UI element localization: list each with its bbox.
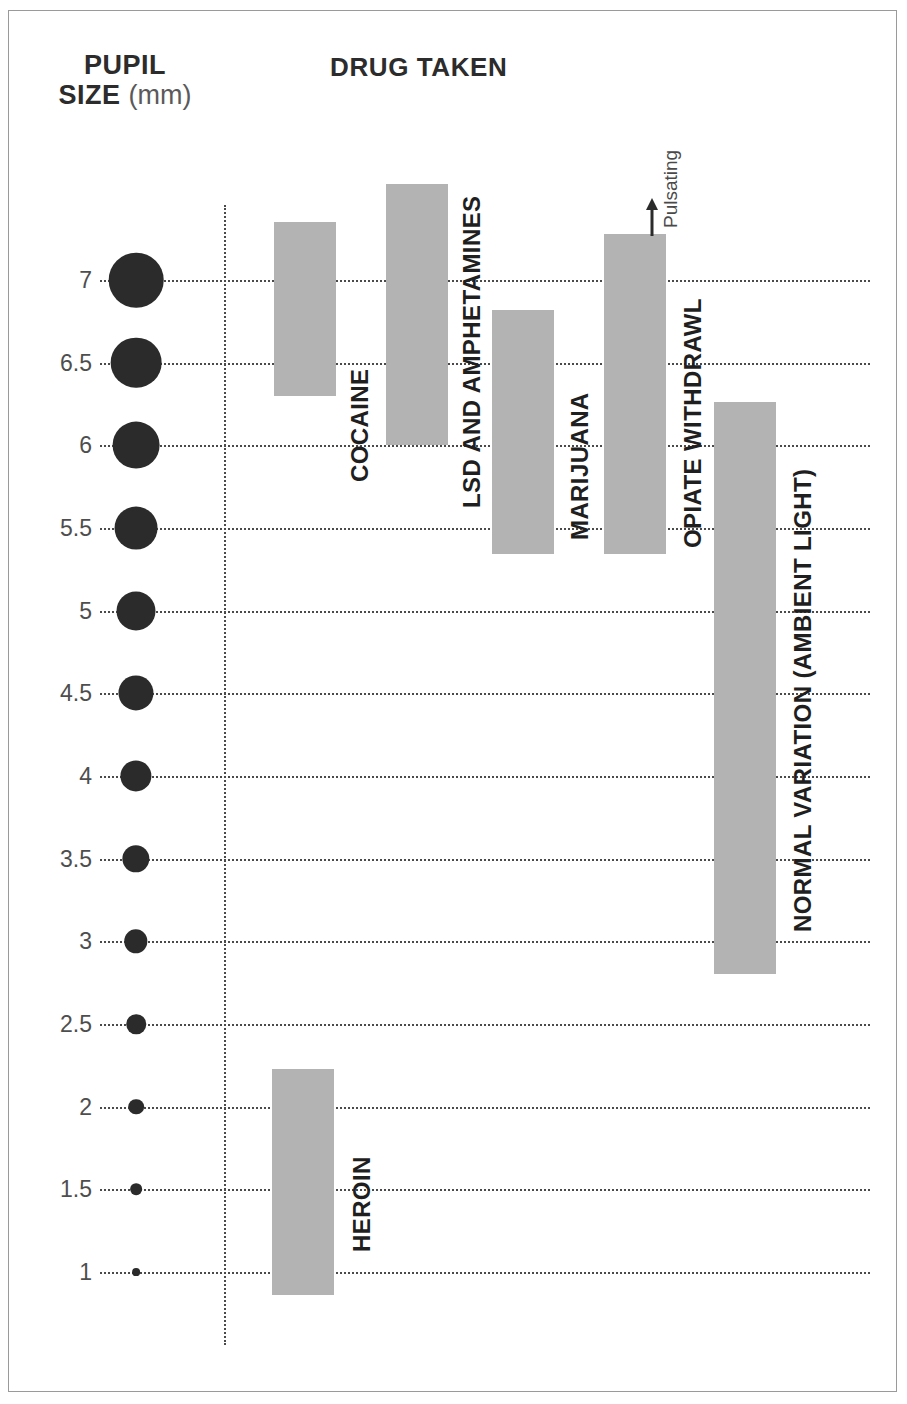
- pupil-circle: [117, 591, 156, 630]
- vertical-axis-line: [224, 205, 226, 1345]
- pupil-circle: [115, 507, 158, 550]
- bar-label: MARIJUANA: [566, 392, 594, 540]
- pupil-circle: [109, 253, 164, 308]
- gridline: [100, 1107, 870, 1109]
- y-axis-tick-label: 6: [26, 432, 92, 459]
- pupil-circle: [132, 1268, 140, 1276]
- bar-normal-variation-ambient-light: [714, 402, 776, 974]
- bar-label: NORMAL VARIATION (AMBIENT LIGHT): [789, 469, 817, 932]
- gridline: [100, 1272, 870, 1274]
- y-axis-tick-label: 5.5: [26, 515, 92, 542]
- pupil-circle: [118, 676, 153, 711]
- plot-area: 76.565.554.543.532.521.51 COCAINELSD AND…: [0, 0, 907, 1404]
- pupil-circle: [130, 1183, 142, 1195]
- y-axis-tick-label: 6.5: [26, 349, 92, 376]
- pupil-circle: [120, 760, 151, 791]
- pulsating-annotation-label: Pulsating: [660, 150, 682, 228]
- bar-label: OPIATE WITHDRAWL: [679, 298, 707, 548]
- bar-label: HEROIN: [348, 1156, 376, 1252]
- y-axis-tick-label: 3.5: [26, 845, 92, 872]
- pupil-circle: [126, 1014, 146, 1034]
- y-axis-tick-label: 2.5: [26, 1011, 92, 1038]
- bar-opiate-withdrawl: [604, 234, 666, 555]
- y-axis-tick-label: 4.5: [26, 680, 92, 707]
- pupil-circle: [111, 337, 162, 388]
- chart-page: PUPIL SIZE (mm) DRUG TAKEN 76.565.554.54…: [0, 0, 907, 1404]
- up-arrow-icon: [645, 198, 659, 236]
- y-axis-tick-label: 5: [26, 597, 92, 624]
- bar-heroin: [272, 1069, 334, 1296]
- y-axis-tick-label: 1: [26, 1259, 92, 1286]
- y-axis-tick-label: 4: [26, 763, 92, 790]
- y-axis-tick-label: 1.5: [26, 1176, 92, 1203]
- gridline: [100, 1024, 870, 1026]
- y-axis-tick-label: 2: [26, 1093, 92, 1120]
- pupil-circle: [122, 845, 149, 872]
- y-axis-tick-label: 7: [26, 267, 92, 294]
- bar-lsd-and-amphetamines: [386, 184, 448, 445]
- y-axis-tick-label: 3: [26, 928, 92, 955]
- gridline: [100, 1189, 870, 1191]
- bar-label: LSD AND AMPHETAMINES: [458, 196, 486, 508]
- bar-label: COCAINE: [346, 369, 374, 482]
- pupil-circle: [113, 422, 160, 469]
- bar-marijuana: [492, 310, 554, 555]
- pupil-circle: [128, 1099, 144, 1115]
- pupil-circle: [124, 930, 147, 953]
- bar-cocaine: [274, 222, 336, 396]
